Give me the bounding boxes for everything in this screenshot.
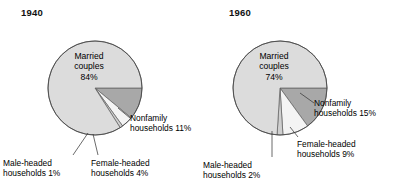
callout-1940-female-headed: Female-headed households 4% — [91, 158, 150, 178]
callout-line-2: households 1% — [3, 168, 60, 178]
callout-line-2: households 2% — [203, 170, 260, 180]
callout-line-1: Nonfamily — [130, 113, 167, 123]
callout-line-1: Male-headed — [3, 158, 52, 168]
callout-line-2: households 4% — [91, 168, 150, 178]
center-line-2: couples — [74, 61, 104, 71]
leader-line-1940-male — [73, 133, 88, 155]
callout-1960-female-headed: Female-headed households 9% — [297, 139, 356, 159]
callout-line-1: Female-headed — [297, 139, 356, 149]
center-line-1: Married — [259, 51, 288, 61]
center-line-1: Married — [74, 51, 103, 61]
callout-line-1: Nonfamily — [314, 98, 351, 108]
pie-center-label-1960: Married couples 74% — [236, 51, 312, 82]
pie-slices-layer — [0, 0, 403, 191]
callout-1960-nonfamily: Nonfamily households 15% — [314, 98, 376, 118]
center-line-3: 84% — [80, 72, 97, 82]
callout-line-1: Male-headed — [203, 160, 252, 170]
center-line-3: 74% — [265, 72, 282, 82]
callout-1940-nonfamily: Nonfamily households 11% — [130, 113, 191, 133]
callout-1940-male-headed: Male-headed households 1% — [3, 158, 60, 178]
callout-line-2: households 9% — [297, 149, 356, 159]
pie-center-label-1940: Married couples 84% — [51, 51, 127, 82]
callout-1960-male-headed: Male-headed households 2% — [203, 160, 260, 180]
center-line-2: couples — [259, 61, 289, 71]
callout-line-2: households 11% — [130, 123, 191, 133]
callout-line-1: Female-headed — [91, 158, 150, 168]
pie-chart-figure: 1940 1960 Married couples 84% Married co… — [0, 0, 403, 191]
leader-line-1940-female — [93, 134, 98, 155]
callout-line-2: households 15% — [314, 108, 376, 118]
